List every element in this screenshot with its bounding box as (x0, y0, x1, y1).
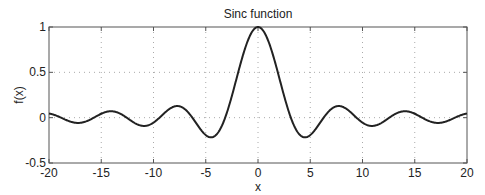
x-tick-label: 10 (356, 166, 370, 180)
y-tick-label: 0 (39, 111, 46, 125)
x-tick-label: -10 (145, 166, 163, 180)
y-tick-label: 0.5 (29, 65, 46, 79)
chart-title: Sinc function (224, 7, 293, 21)
x-tick-label: 0 (255, 166, 262, 180)
x-tick-label: -15 (93, 166, 111, 180)
grid-lines (49, 27, 467, 163)
x-tick-label: 5 (307, 166, 314, 180)
x-tick-label: -5 (200, 166, 211, 180)
x-tick-label: 15 (408, 166, 422, 180)
y-tick-label: -0.5 (25, 156, 46, 170)
y-tick-label: 1 (39, 20, 46, 34)
x-axis-label: x (255, 180, 261, 194)
axis-ticks: -20-15-10-505101520-0.500.51 (25, 20, 474, 180)
sinc-chart: -20-15-10-505101520-0.500.51 Sinc functi… (0, 0, 485, 195)
y-axis-label: f(x) (12, 86, 26, 103)
x-tick-label: 20 (460, 166, 474, 180)
